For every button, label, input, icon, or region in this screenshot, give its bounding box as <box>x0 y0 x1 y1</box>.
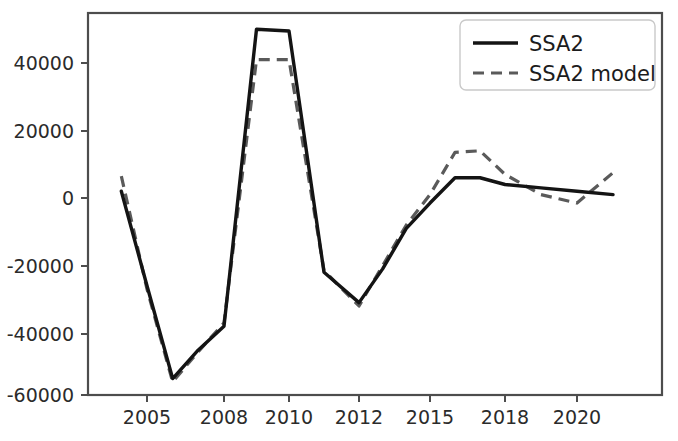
y-tick-label-40000: 40000 <box>14 52 74 74</box>
legend-label-ssa2-model: SSA2 model <box>529 62 656 86</box>
y-tick-label-0: 0 <box>62 187 74 209</box>
y-tick-label-20000: 20000 <box>14 120 74 142</box>
x-tick-label-2010: 2010 <box>265 406 313 428</box>
x-tick-label-2018: 2018 <box>481 406 529 428</box>
x-tick-label-2008: 2008 <box>200 406 248 428</box>
legend-label-ssa2: SSA2 <box>529 32 584 56</box>
x-axis-tick-labels: 2005 2008 2010 2012 2015 2018 2020 <box>123 406 601 428</box>
series-line-ssa2-model <box>121 60 613 382</box>
x-tick-label-2005: 2005 <box>123 406 171 428</box>
x-tick-label-2020: 2020 <box>553 406 601 428</box>
x-tick-label-2012: 2012 <box>335 406 383 428</box>
chart-legend[interactable]: SSA2 SSA2 model <box>460 20 656 90</box>
x-tick-label-2015: 2015 <box>406 406 454 428</box>
line-chart-canvas: 40000 20000 0 -20000 -40000 -60000 2005 … <box>0 0 678 441</box>
y-axis-tick-labels: 40000 20000 0 -20000 -40000 -60000 <box>7 52 74 406</box>
y-tick-label-minus60000: -60000 <box>7 384 74 406</box>
chart-figure: 40000 20000 0 -20000 -40000 -60000 2005 … <box>0 0 678 441</box>
y-tick-label-minus20000: -20000 <box>7 255 74 277</box>
y-tick-label-minus40000: -40000 <box>7 323 74 345</box>
